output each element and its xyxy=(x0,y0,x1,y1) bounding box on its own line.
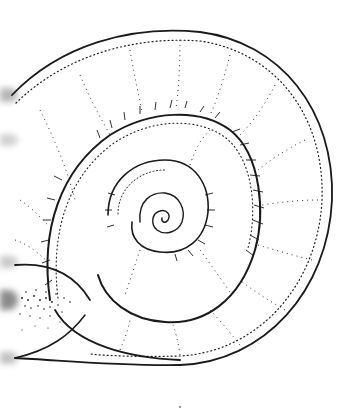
shell-spiral-icon xyxy=(0,0,364,414)
third-whorl xyxy=(108,160,208,252)
second-whorl xyxy=(48,115,261,322)
inner-coil xyxy=(140,193,183,233)
